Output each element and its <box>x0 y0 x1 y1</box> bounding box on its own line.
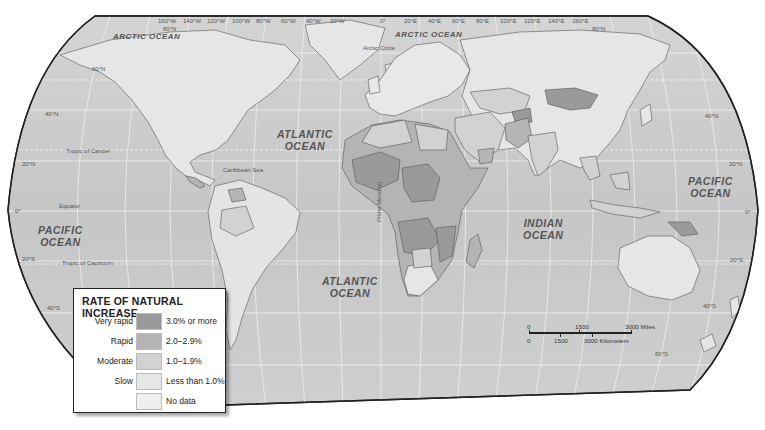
legend-swatch <box>136 333 162 350</box>
lat-label: 20°S <box>730 257 743 263</box>
lon-label: 80°E <box>476 18 489 24</box>
lon-label: 100°W <box>232 18 250 24</box>
lat-label: 40°S <box>703 303 716 309</box>
lon-label: 0° <box>380 18 386 24</box>
legend-item-very-rapid: Very rapid 3.0% or more <box>74 313 225 330</box>
ocean-label-atlantic-south: ATLANTICOCEAN <box>322 275 378 299</box>
legend-swatch <box>136 373 162 390</box>
legend-category: Very rapid <box>95 316 133 326</box>
lon-label: 140°E <box>548 18 564 24</box>
map-legend: RATE OF NATURAL INCREASE Very rapid 3.0%… <box>73 288 226 413</box>
legend-swatch <box>136 353 162 370</box>
ocean-label-pacific-west: PACIFICOCEAN <box>38 224 83 248</box>
legend-range: 1.0–1.9% <box>166 356 202 366</box>
legend-category: Moderate <box>97 356 133 366</box>
tropic-of-capricorn-label: Tropic of Capricorn <box>62 260 113 266</box>
lat-label: 40°N <box>705 113 718 119</box>
legend-category: Slow <box>115 376 133 386</box>
ocean-label-atlantic-north: ATLANTICOCEAN <box>277 128 333 152</box>
lon-label: 100°E <box>500 18 516 24</box>
scale-bar: 0 1500 3000 Miles 0 1500 3000 Kilometers <box>527 320 677 346</box>
prime-meridian-label: Prime Meridian <box>376 182 382 222</box>
lon-label: 60°W <box>281 18 296 24</box>
legend-item-slow: Slow Less than 1.0% <box>74 373 225 390</box>
lat-label: 60°N <box>92 66 105 72</box>
legend-item-rapid: Rapid 2.0–2.9% <box>74 333 225 350</box>
lon-label: 120°W <box>207 18 225 24</box>
scale-km-zero: 0 <box>527 337 530 344</box>
scale-km-mid: 1500 <box>554 337 568 344</box>
legend-range: 2.0–2.9% <box>166 336 202 346</box>
lat-label: 20°N <box>22 161 35 167</box>
ocean-label-indian: INDIANOCEAN <box>523 217 563 241</box>
lat-label: 0° <box>15 208 21 214</box>
lat-label: 0° <box>745 209 751 215</box>
world-map: 160°W 140°W 120°W 100°W 80°W 60°W 40°W 2… <box>0 0 765 430</box>
scale-miles-end: 3000 Miles <box>625 323 655 330</box>
scale-miles-mid: 1500 <box>575 323 589 330</box>
legend-item-no-data: No data <box>74 393 225 410</box>
ocean-label-pacific-east: PACIFICOCEAN <box>688 175 733 199</box>
equator-label: Equator <box>59 203 80 209</box>
tropic-of-cancer-label: Tropic of Cancer <box>66 148 110 154</box>
lat-label: 80°N <box>592 26 605 32</box>
lon-label: 60°E <box>452 18 465 24</box>
legend-swatch <box>136 313 162 330</box>
legend-swatch <box>136 393 162 410</box>
legend-range: Less than 1.0% <box>166 376 225 386</box>
ocean-label-arctic-west: ARCTIC OCEAN <box>113 32 180 41</box>
arctic-circle-label: Arctic Circle <box>363 45 395 51</box>
scale-miles-zero: 0 <box>527 323 530 330</box>
lon-label: 160°W <box>158 18 176 24</box>
legend-item-moderate: Moderate 1.0–1.9% <box>74 353 225 370</box>
scale-km-end: 3000 Kilometers <box>584 337 629 344</box>
scale-tick <box>631 330 632 334</box>
lat-label: 60°S <box>655 351 668 357</box>
lon-label: 160°E <box>572 18 588 24</box>
legend-category: Rapid <box>111 336 133 346</box>
lat-label: 20°N <box>729 161 742 167</box>
ocean-label-arctic-east: ARCTIC OCEAN <box>395 30 462 39</box>
legend-range: 3.0% or more <box>166 316 217 326</box>
lon-label: 140°W <box>183 18 201 24</box>
legend-range: No data <box>166 396 196 406</box>
lon-label: 40°E <box>428 18 441 24</box>
caribbean-sea-label: Caribbean Sea <box>223 167 263 173</box>
lon-label: 80°W <box>256 18 271 24</box>
scale-tick <box>529 330 530 334</box>
lat-label: 40°N <box>45 111 58 117</box>
lat-label: 20°S <box>22 256 35 262</box>
lon-label: 120°E <box>524 18 540 24</box>
scale-tick <box>579 330 580 334</box>
lon-label: 40°W <box>306 18 321 24</box>
scale-line <box>529 332 632 334</box>
lon-label: 20°E <box>404 18 417 24</box>
lat-label: 40°S <box>47 305 60 311</box>
lon-label: 20°W <box>330 18 345 24</box>
